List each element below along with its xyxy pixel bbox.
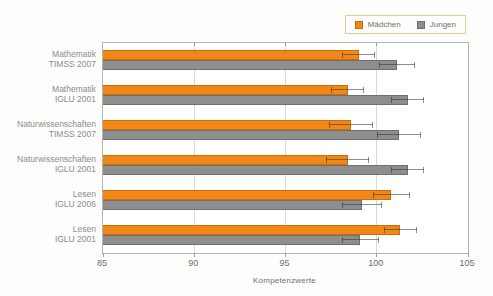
- category-label: NaturwissenschaftenIGLU 2001: [0, 154, 96, 174]
- axis-tick-bottom: [103, 253, 104, 257]
- error-bar-cap: [384, 227, 385, 233]
- error-bar-cap: [416, 227, 417, 233]
- legend: MädchenJungen: [345, 15, 466, 34]
- axis-tick-top: [376, 43, 377, 46]
- error-bar-cap: [381, 202, 382, 208]
- category-label-line: Lesen: [0, 224, 96, 234]
- error-bar-line: [326, 159, 370, 160]
- error-bar-cap: [342, 237, 343, 243]
- gridline: [285, 43, 286, 253]
- error-bar: [379, 62, 416, 68]
- error-bar-cap: [373, 192, 374, 198]
- error-bar-cap: [342, 202, 343, 208]
- category-label: MathematikTIMSS 2007: [0, 49, 96, 69]
- axis-tick-bottom: [194, 253, 195, 257]
- axis-tick-bottom: [285, 253, 286, 257]
- x-tick-label: 95: [279, 258, 289, 268]
- error-bar-cap: [326, 157, 327, 163]
- error-bar-cap: [378, 237, 379, 243]
- category-label-line: Mathematik: [0, 84, 96, 94]
- axis-tick-bottom: [468, 253, 469, 257]
- bar-jungen: [103, 235, 360, 245]
- error-bar-cap: [342, 52, 343, 58]
- legend-swatch: [417, 21, 425, 29]
- plot-area: [102, 42, 469, 254]
- error-bar: [342, 202, 382, 208]
- x-axis-label: Kompetenzwerte: [102, 276, 467, 285]
- axis-tick-top: [285, 43, 286, 46]
- error-bar-cap: [414, 62, 415, 68]
- error-bar: [329, 122, 373, 128]
- error-bar-cap: [391, 97, 392, 103]
- error-bar-line: [329, 124, 373, 125]
- legend-label: Jungen: [430, 20, 456, 29]
- error-bar-line: [373, 194, 410, 195]
- error-bar-line: [379, 64, 416, 65]
- error-bar: [342, 237, 379, 243]
- category-label-line: TIMSS 2007: [0, 129, 96, 139]
- error-bar: [391, 167, 424, 173]
- bar-jungen: [103, 95, 408, 105]
- x-tick-label: 105: [459, 258, 474, 268]
- gridline: [194, 43, 195, 253]
- error-bar-cap: [391, 167, 392, 173]
- error-bar: [373, 192, 410, 198]
- category-label-line: IGLU 2001: [0, 94, 96, 104]
- bar-maedchen: [103, 190, 391, 200]
- x-tick-label: 85: [97, 258, 107, 268]
- error-bar-line: [342, 239, 379, 240]
- bar-maedchen: [103, 225, 400, 235]
- error-bar-line: [391, 99, 424, 100]
- axis-tick-bottom: [376, 253, 377, 257]
- category-label-line: Mathematik: [0, 49, 96, 59]
- category-label-line: Naturwissenschaften: [0, 119, 96, 129]
- error-bar-cap: [423, 97, 424, 103]
- category-label: MathematikIGLU 2001: [0, 84, 96, 104]
- error-bar: [391, 97, 424, 103]
- x-tick-label: 90: [188, 258, 198, 268]
- category-label: NaturwissenschaftenTIMSS 2007: [0, 119, 96, 139]
- error-bar-cap: [377, 132, 378, 138]
- bar-chart: MädchenJungen Kompetenzwerte 85909510010…: [0, 0, 493, 296]
- error-bar-line: [342, 54, 375, 55]
- category-label: LesenIGLU 2001: [0, 224, 96, 244]
- bar-maedchen: [103, 50, 359, 60]
- error-bar-line: [377, 134, 421, 135]
- error-bar-cap: [420, 132, 421, 138]
- x-tick-label: 100: [368, 258, 383, 268]
- axis-tick-top: [194, 43, 195, 46]
- error-bar: [384, 227, 417, 233]
- error-bar-cap: [379, 62, 380, 68]
- error-bar-cap: [372, 122, 373, 128]
- legend-label: Mädchen: [368, 20, 401, 29]
- legend-item: Mädchen: [355, 20, 401, 29]
- bar-maedchen: [103, 85, 348, 95]
- error-bar-cap: [409, 192, 410, 198]
- error-bar-cap: [363, 87, 364, 93]
- bar-jungen: [103, 60, 397, 70]
- bar-maedchen: [103, 155, 348, 165]
- category-label-line: TIMSS 2007: [0, 59, 96, 69]
- error-bar: [326, 157, 370, 163]
- bar-maedchen: [103, 120, 351, 130]
- error-bar: [342, 52, 375, 58]
- bar-jungen: [103, 165, 408, 175]
- error-bar: [331, 87, 364, 93]
- error-bar-cap: [329, 122, 330, 128]
- legend-swatch: [355, 21, 363, 29]
- bar-jungen: [103, 130, 399, 140]
- category-label-line: IGLU 2001: [0, 234, 96, 244]
- error-bar: [377, 132, 421, 138]
- bar-jungen: [103, 200, 362, 210]
- category-label-line: IGLU 2006: [0, 199, 96, 209]
- error-bar-line: [331, 89, 364, 90]
- legend-item: Jungen: [417, 20, 456, 29]
- error-bar-line: [342, 204, 382, 205]
- gridline: [376, 43, 377, 253]
- category-label: LesenIGLU 2006: [0, 189, 96, 209]
- error-bar-line: [384, 229, 417, 230]
- error-bar-cap: [423, 167, 424, 173]
- error-bar-line: [391, 169, 424, 170]
- error-bar-cap: [368, 157, 369, 163]
- category-label-line: IGLU 2001: [0, 164, 96, 174]
